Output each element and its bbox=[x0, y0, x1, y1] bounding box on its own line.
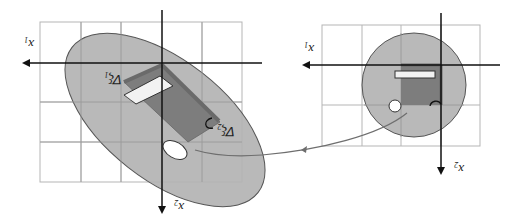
left-panel: x1 x2 ∇ξ1 ∇ξ2 bbox=[24, 0, 295, 224]
reference-rectangle bbox=[395, 71, 435, 78]
reference-hole bbox=[389, 100, 401, 112]
right-panel: x1 x2 bbox=[304, 13, 500, 177]
left-label-x1: x1 bbox=[24, 35, 35, 52]
svg-text:x2: x2 bbox=[454, 160, 465, 177]
right-label-x1: x1 bbox=[304, 40, 315, 57]
svg-text:x2: x2 bbox=[174, 198, 185, 215]
left-label-x2: x2 bbox=[174, 198, 185, 215]
right-label-x2: x2 bbox=[454, 160, 465, 177]
mapping-arrowhead-icon bbox=[301, 146, 307, 153]
svg-text:x1: x1 bbox=[24, 35, 35, 52]
diagram-canvas: x1 x2 ∇ξ1 ∇ξ2 bbox=[0, 0, 519, 224]
svg-text:x1: x1 bbox=[304, 40, 315, 57]
